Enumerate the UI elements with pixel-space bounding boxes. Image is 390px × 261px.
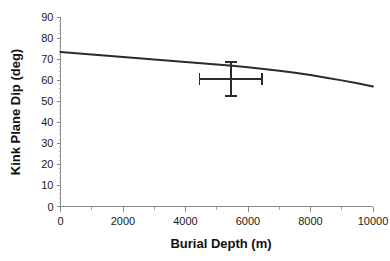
x-tick-label: 4000 [173, 215, 197, 227]
x-tick-label: 2000 [111, 215, 135, 227]
y-tick-label: 20 [41, 158, 53, 170]
series-line [61, 52, 374, 87]
chart-figure: 0102030405060708090 02000400060008000100… [0, 0, 390, 261]
x-tick-label: 6000 [236, 215, 260, 227]
y-tick-label: 30 [41, 137, 53, 149]
y-tick-label: 10 [41, 179, 53, 191]
y-axis-tick-labels: 0102030405060708090 [41, 11, 53, 213]
y-tick-label: 60 [41, 74, 53, 86]
x-tick-label: 0 [57, 215, 63, 227]
axes-group [60, 17, 373, 207]
y-tick-label: 40 [41, 116, 53, 128]
kink-plane-dip-chart: 0102030405060708090 02000400060008000100… [0, 0, 390, 261]
x-axis-tick-labels: 0200040006000800010000 [57, 215, 388, 227]
y-tick-label: 70 [41, 53, 53, 65]
data-series-group [61, 52, 374, 87]
y-tick-label: 50 [41, 95, 53, 107]
x-tick-label: 8000 [298, 215, 322, 227]
x-tick-label: 10000 [358, 215, 389, 227]
y-axis-ticks [57, 17, 61, 207]
y-axis-title: Kink Plane Dip (deg) [8, 49, 23, 175]
x-axis-title: Burial Depth (m) [170, 236, 271, 251]
y-tick-label: 0 [47, 201, 53, 213]
y-tick-label: 80 [41, 32, 53, 44]
y-tick-label: 90 [41, 11, 53, 23]
